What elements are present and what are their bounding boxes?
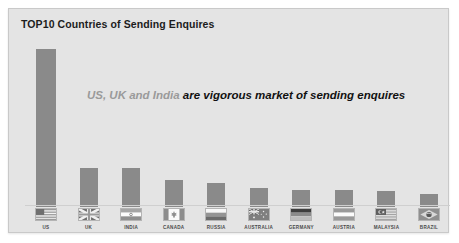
- bar-column-canada: [153, 49, 195, 207]
- category-label-uk: UK: [68, 225, 110, 230]
- category-label-malaysia: MALAYSIA: [365, 225, 407, 230]
- flag-germany-icon: [290, 208, 312, 221]
- page-title: TOP10 Countries of Sending Enquires: [21, 18, 215, 30]
- category-label-canada: CANADA: [153, 225, 195, 230]
- flag-cell-uk: [68, 207, 110, 223]
- flag-canada-icon: [163, 208, 185, 221]
- category-label-brazil: BRAZIL: [408, 225, 450, 230]
- category-label-australia: AUSTRALIA: [238, 225, 280, 230]
- bar-us[interactable]: [36, 49, 56, 207]
- bar-russia[interactable]: [207, 183, 225, 207]
- category-label-us: US: [25, 225, 67, 230]
- category-label-row: USUKINDIACANADARUSSIAAUSTRALIAGERMANYAUS…: [25, 225, 450, 237]
- bar-india[interactable]: [122, 168, 140, 208]
- flag-malaysia-icon: [375, 208, 397, 221]
- bar-column-uk: [68, 49, 110, 207]
- bar-column-brazil: [408, 49, 450, 207]
- bar-canada[interactable]: [165, 180, 183, 207]
- category-label-india: INDIA: [110, 225, 152, 230]
- flag-cell-russia: [195, 207, 237, 223]
- bar-column-us: [25, 49, 67, 207]
- flag-cell-malaysia: [365, 207, 407, 223]
- axis-baseline: [25, 205, 450, 206]
- flag-cell-austria: [323, 207, 365, 223]
- flag-brazil-icon: [418, 208, 440, 221]
- flag-austria-icon: [333, 208, 355, 221]
- bar-column-malaysia: [365, 49, 407, 207]
- flag-russia-icon: [205, 208, 227, 221]
- flag-cell-us: [25, 207, 67, 223]
- flag-india-icon: [120, 208, 142, 221]
- bar-column-germany: [280, 49, 322, 207]
- category-label-austria: AUSTRIA: [323, 225, 365, 230]
- category-label-russia: RUSSIA: [195, 225, 237, 230]
- flag-australia-icon: [248, 208, 270, 221]
- plot-area: [25, 49, 450, 207]
- flag-cell-india: [110, 207, 152, 223]
- flag-cell-germany: [280, 207, 322, 223]
- bar-column-australia: [238, 49, 280, 207]
- flag-uk-icon: [78, 208, 100, 221]
- chart-panel: TOP10 Countries of Sending Enquires US, …: [8, 8, 449, 233]
- flag-cell-canada: [153, 207, 195, 223]
- bar-column-india: [110, 49, 152, 207]
- category-label-germany: GERMANY: [280, 225, 322, 230]
- chart-page: TOP10 Countries of Sending Enquires US, …: [0, 0, 459, 243]
- bar-uk[interactable]: [80, 168, 98, 208]
- bar-column-austria: [323, 49, 365, 207]
- flag-cell-brazil: [408, 207, 450, 223]
- bar-column-russia: [195, 49, 237, 207]
- flag-cell-australia: [238, 207, 280, 223]
- flag-row: [25, 207, 450, 223]
- flag-us-icon: [35, 208, 57, 221]
